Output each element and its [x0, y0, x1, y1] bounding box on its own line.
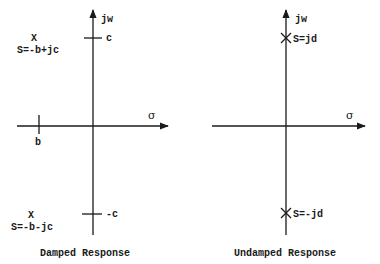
- jw-axis-label: jw: [295, 14, 307, 25]
- tick-minus-c-label: -c: [106, 209, 118, 220]
- sigma-axis-label: σ: [148, 109, 156, 122]
- sigma-axis-label: σ: [346, 109, 354, 122]
- jw-axis-label: jw: [101, 14, 113, 25]
- undamped-caption: Undamped Response: [234, 248, 336, 259]
- pole-marker-lower: X: [28, 210, 34, 221]
- tick-c-label: c: [106, 33, 112, 44]
- damped-caption: Damped Response: [40, 248, 130, 259]
- undamped-response-diagram: jw σ S=jd S=-jd Undamped Response: [212, 10, 365, 259]
- pole-diagrams-canvas: jw σ c -c b X S=-b+jc X S=-b-jc Damped R…: [0, 0, 380, 264]
- pole-label-upper: S=jd: [293, 34, 317, 45]
- pole-label-upper: S=-b+jc: [17, 45, 59, 56]
- damped-response-diagram: jw σ c -c b X S=-b+jc X S=-b-jc Damped R…: [11, 10, 168, 259]
- pole-label-lower: S=-b-jc: [11, 222, 53, 233]
- pole-marker-upper: X: [31, 33, 37, 44]
- pole-label-lower: S=-jd: [293, 209, 323, 220]
- tick-b-label: b: [35, 137, 41, 148]
